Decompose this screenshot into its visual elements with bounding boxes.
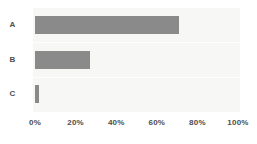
- x-tick-label: 60%: [148, 118, 165, 128]
- plot-area: [33, 8, 240, 112]
- bar-chart: A B C 0%20%40%60%80%100%: [0, 0, 257, 144]
- x-tick-label: 40%: [108, 118, 125, 128]
- bar-category-b[interactable]: [35, 51, 90, 69]
- y-tick-label: A: [0, 20, 25, 30]
- y-tick-label: B: [0, 55, 25, 65]
- x-tick-label: 100%: [227, 118, 248, 128]
- y-axis: A B C: [0, 8, 33, 112]
- bar-category-c[interactable]: [35, 85, 39, 103]
- bar-row: [33, 8, 240, 43]
- bar-row: [33, 77, 240, 112]
- bar-row: [33, 43, 240, 78]
- x-tick-label: 20%: [67, 118, 84, 128]
- x-axis: 0%20%40%60%80%100%: [33, 118, 240, 132]
- bar-category-a[interactable]: [35, 16, 179, 34]
- y-tick-label: C: [0, 89, 25, 99]
- x-tick-label: 80%: [189, 118, 206, 128]
- x-tick-label: 0%: [29, 118, 41, 128]
